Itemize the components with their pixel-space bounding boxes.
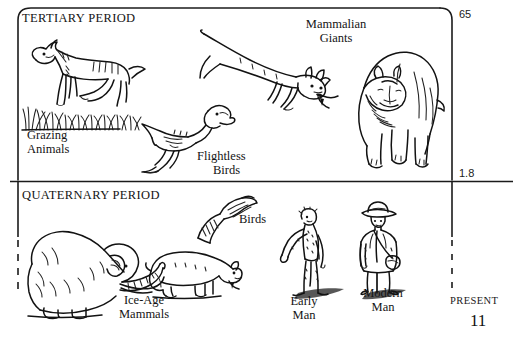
sabre-tooth-cat-illustration [145,245,243,299]
caption-mammalian-giants: Mammalian Giants [286,18,386,45]
tertiary-period-title: TERTIARY PERIOD [22,11,135,26]
caption-birds-line1: Birds [239,213,266,227]
caption-early-line2: Man [278,309,330,323]
giant-rhinoceros-illustration [342,38,446,172]
caption-flightless-line2: Birds [197,164,246,178]
quaternary-period-title: QUATERNARY PERIOD [22,188,160,203]
caption-early-line1: Early [278,295,330,309]
caption-early-man: Early Man [278,295,330,322]
axis-tick-present: PRESENT [450,295,498,306]
early-man-illustration [276,207,346,303]
caption-mammalian-line1: Mammalian [286,18,386,32]
caption-mammalian-line2: Giants [286,32,386,46]
caption-grazing-line1: Grazing [27,129,69,143]
caption-grazing-line2: Animals [27,143,69,157]
caption-ice-age-mammals: Ice-Age Mammals [98,294,190,321]
caption-flightless-line1: Flightless [197,150,246,164]
caption-birds: Birds [239,213,266,227]
caption-modern-line1: Modern [355,287,411,301]
page-number: 11 [470,311,486,331]
caption-grazing-animals: Grazing Animals [27,129,69,156]
axis-tick-1-8: 1.8 [459,167,474,179]
caption-modern-man: Modern Man [355,287,411,314]
caption-modern-line2: Man [355,301,411,315]
caption-iceage-line2: Mammals [98,308,190,322]
timeline-figure: TERTIARY PERIOD QUATERNARY PERIOD 65 1.8… [0,0,513,339]
axis-tick-65: 65 [459,8,471,20]
caption-iceage-line1: Ice-Age [98,294,190,308]
caption-flightless-birds: Flightless Birds [197,150,246,177]
